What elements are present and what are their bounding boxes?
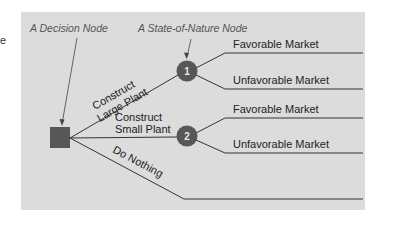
chance-node-1: 1	[177, 61, 198, 82]
decision-tree-diagram: A Decision Node A State-of-Nature Node 1…	[0, 0, 397, 227]
decision-node	[50, 127, 70, 148]
outcome-node2-favorable: Favorable Market	[233, 103, 319, 115]
chance-node-2: 2	[177, 126, 198, 147]
label-small-plant-line1: Construct	[115, 111, 162, 123]
callout-decision-node: A Decision Node	[29, 22, 108, 34]
chance-node-1-number: 1	[184, 66, 190, 77]
chance-node-2-number: 2	[184, 131, 190, 142]
label-small-plant-line2: Small Plant	[115, 123, 171, 135]
callout-state-of-nature-node: A State-of-Nature Node	[137, 22, 247, 34]
outcome-node1-favorable: Favorable Market	[233, 38, 319, 50]
outcome-node2-unfavorable: Unfavorable Market	[233, 138, 329, 150]
outcome-node1-unfavorable: Unfavorable Market	[233, 74, 329, 86]
